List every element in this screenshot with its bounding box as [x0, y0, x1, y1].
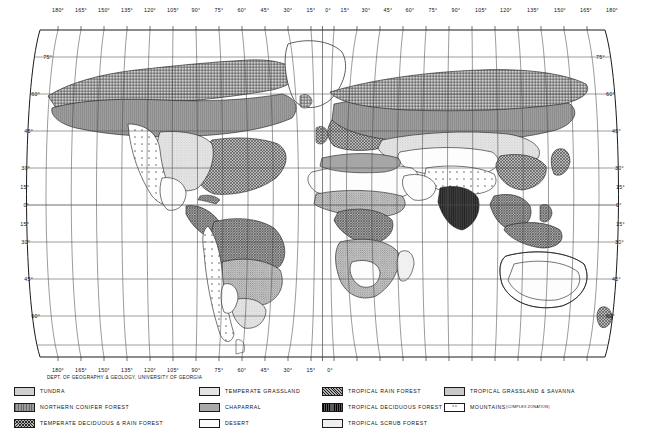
lon-label-top-1: 165°: [75, 7, 87, 13]
lon-label-bottom-5: 105°: [167, 367, 179, 373]
lat-label-left-7: 45°: [24, 276, 33, 282]
legend-column-2: TEMPERATE GRASSLAND CHAPARRAL DESERT: [199, 383, 300, 431]
swatch-temperate-deciduous-rain-forest-icon: [14, 419, 35, 428]
world-biome-map-page: ʌ: [0, 0, 645, 433]
legend-label-temperate-grassland: TEMPERATE GRASSLAND: [225, 387, 300, 396]
region-mediterranean-chaparral: [320, 154, 400, 173]
legend-label-desert: DESERT: [225, 419, 249, 428]
lat-label-right-6: 30°: [615, 239, 624, 245]
swatch-tropical-rain-forest-icon: [322, 387, 343, 396]
legend-label-temperate-deciduous-rain-forest: TEMPERATE DECIDUOUS & RAIN FOREST: [40, 419, 163, 428]
lon-label-bottom-7: 75°: [215, 367, 224, 373]
lon-label-top-19: 105°: [475, 7, 487, 13]
lon-label-top-12: 0°: [325, 7, 331, 13]
lon-label-top-8: 60°: [238, 7, 247, 13]
lon-label-top-2: 150°: [98, 7, 110, 13]
lat-label-left-8: 60°: [31, 313, 40, 319]
legend-column-3: TROPICAL RAIN FOREST TROPICAL DECIDUOUS …: [322, 383, 443, 431]
lat-label-right-2: 30°: [615, 165, 624, 171]
map-legend: TUNDRA NORTHERN CONIFER FOREST TEMPERATE…: [0, 383, 645, 433]
legend-item-temperate-grassland[interactable]: TEMPERATE GRASSLAND: [199, 383, 300, 399]
lon-label-top-22: 150°: [554, 7, 566, 13]
legend-item-temperate-deciduous-rain-forest[interactable]: TEMPERATE DECIDUOUS & RAIN FOREST: [14, 415, 163, 431]
legend-label-tropical-deciduous-forest: TROPICAL DECIDUOUS FOREST: [348, 403, 443, 412]
lat-label-left-5: 15°: [20, 221, 29, 227]
swatch-tropical-grassland-savanna-icon: [444, 387, 465, 396]
legend-column-4: TROPICAL GRASSLAND & SAVANNA ʌ ʌ MOUNTAI…: [444, 383, 575, 415]
lat-label-right-1: 45°: [612, 128, 621, 134]
lat-label-left-2: 30°: [21, 165, 30, 171]
legend-label-tropical-rain-forest: TROPICAL RAIN FOREST: [348, 387, 421, 396]
lat-label-right-3: 15°: [616, 184, 625, 190]
lon-label-top-9: 45°: [261, 7, 270, 13]
swatch-northern-conifer-forest-icon: [14, 403, 35, 412]
lat-label-right-75: 75°: [596, 54, 605, 60]
lon-label-top-24: 180°: [606, 7, 618, 13]
lat-label-left-4: 0°: [23, 202, 29, 208]
lon-label-bottom-6: 90°: [192, 367, 201, 373]
lon-label-bottom-2: 150°: [98, 367, 110, 373]
lon-label-top-6: 90°: [192, 7, 201, 13]
swatch-tundra-icon: [14, 387, 35, 396]
legend-item-desert[interactable]: DESERT: [199, 415, 300, 431]
lon-label-top-10: 30°: [284, 7, 293, 13]
legend-label-tundra: TUNDRA: [40, 387, 65, 396]
map-area[interactable]: ʌ: [0, 0, 645, 368]
lon-label-bottom-0: 180°: [52, 367, 64, 373]
legend-label-tropical-scrub-forest: TROPICAL SCRUB FOREST: [348, 419, 427, 428]
lon-label-bottom-8: 60°: [238, 367, 247, 373]
legend-item-tropical-rain-forest[interactable]: TROPICAL RAIN FOREST: [322, 383, 443, 399]
legend-column-1: TUNDRA NORTHERN CONIFER FOREST TEMPERATE…: [14, 383, 163, 431]
lat-label-right-5: 15°: [616, 221, 625, 227]
lat-label-left-0: 60°: [31, 91, 40, 97]
lon-label-top-3: 135°: [121, 7, 133, 13]
lon-label-bottom-9: 45°: [261, 367, 270, 373]
lat-label-left-1: 45°: [24, 128, 33, 134]
lon-label-top-21: 135°: [527, 7, 539, 13]
lat-label-left-6: 30°: [21, 239, 30, 245]
lat-label-right-8: 60°: [606, 313, 615, 319]
lat-label-left-3: 15°: [20, 184, 29, 190]
legend-item-tropical-scrub-forest[interactable]: TROPICAL SCRUB FOREST: [322, 415, 443, 431]
lon-label-top-7: 75°: [215, 7, 224, 13]
lat-label-left-75: 75°: [43, 54, 52, 60]
lon-label-top-15: 45°: [384, 7, 393, 13]
lon-label-top-20: 120°: [500, 7, 512, 13]
lon-label-bottom-11: 15°: [307, 367, 316, 373]
lon-label-top-11: 15°: [307, 7, 316, 13]
lon-label-top-23: 165°: [580, 7, 592, 13]
lon-label-bottom-12: 0°: [327, 367, 333, 373]
swatch-desert-icon: [199, 419, 220, 428]
legend-label-chaparral: CHAPARRAL: [225, 403, 261, 412]
lat-label-right-4: 0°: [616, 202, 622, 208]
lon-label-top-0: 180°: [52, 7, 64, 13]
swatch-tropical-scrub-forest-icon: [322, 419, 343, 428]
swatch-mountains-icon: ʌ ʌ: [444, 403, 465, 412]
legend-label-tropical-grassland-savanna: TROPICAL GRASSLAND & SAVANNA: [470, 387, 575, 396]
legend-label-mountains: MOUNTAINS: [470, 403, 506, 412]
lon-label-top-17: 75°: [429, 7, 438, 13]
lon-label-bottom-3: 135°: [121, 367, 133, 373]
lon-label-top-14: 30°: [362, 7, 371, 13]
lon-label-top-18: 90°: [452, 7, 461, 13]
map-credit: DEPT. OF GEOGRAPHY & GEOLOGY, UNIVERSITY…: [47, 375, 202, 380]
swatch-chaparral-icon: [199, 403, 220, 412]
map-canvas[interactable]: ʌ: [0, 0, 645, 368]
legend-item-tropical-grassland-savanna[interactable]: TROPICAL GRASSLAND & SAVANNA: [444, 383, 575, 399]
legend-item-tundra[interactable]: TUNDRA: [14, 383, 163, 399]
swatch-tropical-deciduous-forest-icon: [322, 403, 343, 412]
legend-item-mountains[interactable]: ʌ ʌ MOUNTAINS(COMPLEX ZONATION): [444, 399, 575, 415]
legend-item-northern-conifer-forest[interactable]: NORTHERN CONIFER FOREST: [14, 399, 163, 415]
lon-label-top-4: 120°: [144, 7, 156, 13]
lon-label-top-13: 15°: [341, 7, 350, 13]
legend-label-mountains-sub: (COMPLEX ZONATION): [506, 403, 550, 412]
lat-label-right-0: 60°: [606, 91, 615, 97]
lon-label-bottom-1: 165°: [75, 367, 87, 373]
swatch-temperate-grassland-icon: [199, 387, 220, 396]
legend-label-northern-conifer-forest: NORTHERN CONIFER FOREST: [40, 403, 129, 412]
legend-item-tropical-deciduous-forest[interactable]: TROPICAL DECIDUOUS FOREST: [322, 399, 443, 415]
legend-item-chaparral[interactable]: CHAPARRAL: [199, 399, 300, 415]
lon-label-bottom-4: 120°: [144, 367, 156, 373]
lon-label-top-16: 60°: [406, 7, 415, 13]
lon-label-top-5: 105°: [167, 7, 179, 13]
